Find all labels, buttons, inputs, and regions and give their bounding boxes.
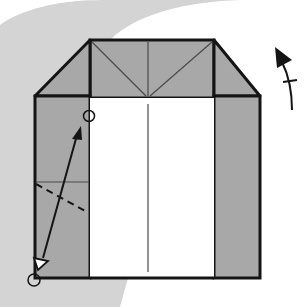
right-column (214, 96, 260, 278)
turn-over-arrow-icon (275, 47, 297, 110)
top-band (90, 40, 214, 98)
origami-diagram: Origami folding step (0, 0, 308, 307)
right-flap (214, 40, 260, 96)
center-panel (90, 98, 214, 278)
